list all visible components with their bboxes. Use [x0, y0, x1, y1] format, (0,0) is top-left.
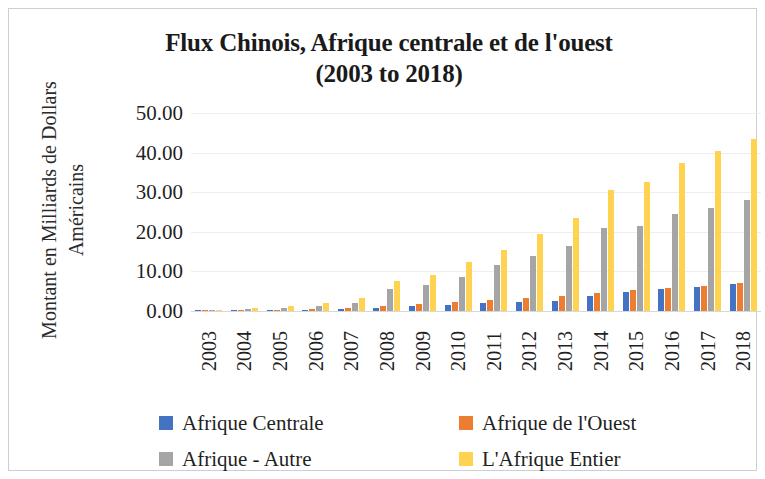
bar[interactable]	[487, 300, 493, 311]
y-axis-tick-label: 20.00	[105, 222, 183, 243]
bar[interactable]	[445, 305, 451, 311]
legend-swatch-icon	[159, 452, 173, 466]
x-axis-tick-cell: 2013	[547, 315, 583, 387]
x-axis-tick-label: 2004	[234, 331, 254, 371]
y-axis-title-line-2: Américains	[63, 50, 90, 370]
bar[interactable]	[608, 190, 614, 311]
x-axis-tick-label: 2017	[698, 331, 718, 371]
bar[interactable]	[466, 262, 472, 312]
bar[interactable]	[494, 265, 500, 311]
bar[interactable]	[380, 306, 386, 311]
legend-item[interactable]: Afrique Centrale	[159, 412, 459, 435]
bar[interactable]	[566, 246, 572, 311]
bar[interactable]	[202, 310, 208, 311]
bar[interactable]	[715, 151, 721, 311]
legend-swatch-icon	[459, 452, 473, 466]
bar[interactable]	[394, 281, 400, 311]
x-axis-tick-cell: 2017	[690, 315, 726, 387]
x-axis-tick-label: 2008	[377, 331, 397, 371]
chart-frame: Flux Chinois, Afrique centrale et de l'o…	[8, 8, 757, 471]
bar-group	[690, 113, 726, 311]
bar[interactable]	[352, 303, 358, 311]
bar[interactable]	[288, 306, 294, 311]
bar[interactable]	[316, 306, 322, 311]
bar[interactable]	[209, 310, 215, 311]
bar[interactable]	[665, 288, 671, 311]
x-axis-tick-cell: 2014	[583, 315, 619, 387]
y-axis-title: Montant en Milliards de Dollars Américai…	[36, 50, 94, 370]
bar[interactable]	[637, 226, 643, 311]
x-axis-tick-cell: 2016	[654, 315, 690, 387]
x-axis-tick-cell: 2004	[227, 315, 263, 387]
bar[interactable]	[644, 182, 650, 311]
bar[interactable]	[216, 310, 222, 311]
legend-item[interactable]: Afrique de l'Ouest	[459, 412, 749, 435]
bar[interactable]	[195, 310, 201, 311]
bar[interactable]	[672, 214, 678, 311]
bar[interactable]	[630, 290, 636, 311]
bar[interactable]	[587, 296, 593, 311]
bar[interactable]	[423, 285, 429, 311]
bar[interactable]	[281, 308, 287, 311]
bar[interactable]	[594, 293, 600, 311]
bar[interactable]	[245, 309, 251, 311]
bar[interactable]	[238, 310, 244, 311]
bar[interactable]	[416, 304, 422, 311]
legend-item[interactable]: L'Afrique Entier	[459, 448, 749, 471]
bar[interactable]	[530, 256, 536, 311]
bar-group	[547, 113, 583, 311]
bar[interactable]	[623, 292, 629, 311]
bar[interactable]	[459, 277, 465, 311]
y-axis-title-line-1: Montant en Milliards de Dollars	[38, 81, 60, 339]
legend-item[interactable]: Afrique - Autre	[159, 448, 459, 471]
legend-item-label: Afrique Centrale	[182, 412, 324, 435]
bar[interactable]	[252, 308, 258, 311]
bar[interactable]	[658, 289, 664, 311]
bar[interactable]	[480, 303, 486, 311]
y-axis-tick-label: 40.00	[105, 143, 183, 164]
chart-title: Flux Chinois, Afrique centrale et de l'o…	[69, 27, 709, 89]
bar[interactable]	[516, 302, 522, 311]
bar[interactable]	[274, 310, 280, 311]
bar[interactable]	[430, 275, 436, 311]
x-axis-tick-label: 2007	[341, 331, 361, 371]
bar[interactable]	[523, 298, 529, 311]
bar[interactable]	[323, 303, 329, 311]
bar[interactable]	[409, 306, 415, 311]
legend-item-label: L'Afrique Entier	[482, 448, 620, 471]
bar[interactable]	[737, 283, 743, 312]
bar[interactable]	[679, 163, 685, 312]
bar[interactable]	[345, 308, 351, 311]
bar[interactable]	[302, 310, 308, 311]
legend-item-label: Afrique - Autre	[182, 448, 311, 471]
bar[interactable]	[338, 309, 344, 311]
bar[interactable]	[552, 301, 558, 311]
bar[interactable]	[601, 228, 607, 311]
bar[interactable]	[231, 310, 237, 311]
bar[interactable]	[387, 289, 393, 311]
bar[interactable]	[730, 284, 736, 311]
x-axis-tick-cell: 2006	[298, 315, 334, 387]
x-axis-tick-label: 2014	[591, 331, 611, 371]
y-axis-tick-label: 0.00	[105, 301, 183, 322]
bar[interactable]	[701, 286, 707, 311]
bar[interactable]	[744, 200, 750, 311]
bar[interactable]	[373, 308, 379, 311]
x-axis-tick-label: 2015	[626, 331, 646, 371]
bar[interactable]	[708, 208, 714, 311]
bar[interactable]	[359, 298, 365, 311]
y-axis-tick-label: 30.00	[105, 182, 183, 203]
bar[interactable]	[694, 287, 700, 311]
bar[interactable]	[267, 310, 273, 311]
bar[interactable]	[501, 250, 507, 311]
legend-swatch-icon	[159, 416, 173, 430]
x-axis-tick-label: 2016	[662, 331, 682, 371]
bar[interactable]	[452, 302, 458, 311]
bar[interactable]	[537, 234, 543, 311]
bar-group	[583, 113, 619, 311]
x-axis-tick-label: 2005	[270, 331, 290, 371]
bar[interactable]	[751, 139, 757, 311]
bar[interactable]	[573, 218, 579, 311]
bar[interactable]	[559, 296, 565, 311]
bar[interactable]	[309, 309, 315, 311]
